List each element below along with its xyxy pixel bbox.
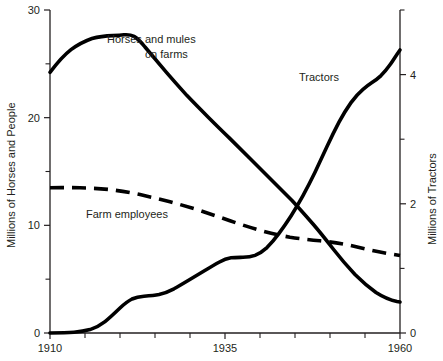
label-horses-line2: on farms	[145, 48, 188, 60]
label-farm-employees: Farm employees	[86, 208, 168, 220]
x-tick-label-1935: 1935	[213, 342, 237, 354]
right-tick-label-0: 0	[410, 327, 416, 339]
right-axis-title: Millions of Tractors	[426, 153, 438, 245]
chart-svg: 30 20 10 0 1910 1935 1960	[0, 0, 443, 361]
left-tick-label-30: 30	[28, 4, 40, 16]
left-tick-label-0: 0	[34, 327, 40, 339]
left-tick-label-10: 10	[28, 219, 40, 231]
x-tick-label-1910: 1910	[38, 342, 62, 354]
chart-container: 30 20 10 0 1910 1935 1960	[0, 0, 443, 361]
left-axis-title: Millions of Horses and People	[5, 102, 17, 248]
right-tick-label-4: 4	[410, 69, 416, 81]
left-tick-label-20: 20	[28, 112, 40, 124]
label-horses-line1: Horses and mules	[107, 33, 196, 45]
label-tractors: Tractors	[299, 71, 339, 83]
x-tick-label-1960: 1960	[388, 342, 412, 354]
right-tick-label-2: 2	[410, 198, 416, 210]
